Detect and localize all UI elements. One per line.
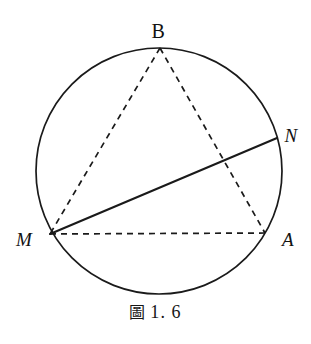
- segment-m-n-solid: [50, 138, 277, 234]
- circumcircle: [36, 48, 282, 294]
- segment-b-m-dashed: [50, 48, 160, 234]
- point-label-b: B: [152, 21, 165, 41]
- point-label-m: M: [16, 230, 32, 249]
- caption-number: 1. 6: [150, 302, 181, 322]
- figure-caption: 圖1. 6: [0, 302, 311, 323]
- point-label-n: N: [285, 126, 298, 145]
- caption-mark: 圖: [129, 303, 145, 322]
- segment-m-a-dashed: [50, 233, 265, 234]
- point-label-a: A: [282, 230, 294, 249]
- segment-b-a-dashed: [160, 48, 265, 233]
- figure-container: B N M A 圖1. 6: [0, 0, 311, 344]
- geometry-canvas: [0, 0, 311, 344]
